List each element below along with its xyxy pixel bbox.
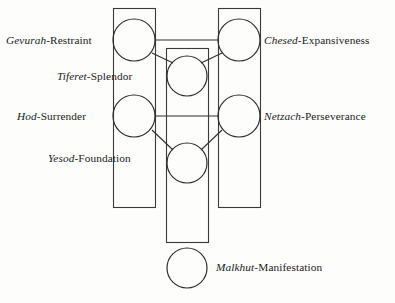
sefirah-circle-chesed[interactable] xyxy=(218,19,260,61)
label-tiferet: Tiferet-Splendor xyxy=(57,70,132,82)
label-hod-english: Surrender xyxy=(41,110,86,122)
label-gevurah-hebrew: Gevurah xyxy=(6,34,46,46)
label-yesod-english: Foundation xyxy=(78,152,130,164)
label-yesod: Yesod-Foundation xyxy=(48,152,131,164)
label-gevurah-english: Restraint xyxy=(50,34,92,46)
label-chesed: Chesed-Expansiveness xyxy=(264,34,370,46)
label-tiferet-hebrew: Tiferet xyxy=(57,70,87,82)
sefirah-circle-hod[interactable] xyxy=(113,95,155,137)
label-netzach-hebrew: Netzach xyxy=(264,110,301,122)
sefirah-circle-yesod[interactable] xyxy=(167,143,207,183)
label-chesed-hebrew: Chesed xyxy=(264,34,298,46)
sefirot-diagram: Gevurah-Restraint Chesed-Expansiveness T… xyxy=(0,0,395,303)
sefirah-circle-gevurah[interactable] xyxy=(113,19,155,61)
label-netzach-english: Perseverance xyxy=(305,110,366,122)
label-netzach: Netzach-Perseverance xyxy=(264,110,366,122)
label-malkhut: Malkhut-Manifestation xyxy=(216,261,322,273)
label-malkhut-english: Manifestation xyxy=(258,261,322,273)
sefirah-circle-netzach[interactable] xyxy=(218,95,260,137)
label-hod-hebrew: Hod xyxy=(17,110,37,122)
label-hod: Hod-Surrender xyxy=(17,110,86,122)
label-malkhut-hebrew: Malkhut xyxy=(216,261,254,273)
label-chesed-english: Expansiveness xyxy=(302,34,370,46)
label-tiferet-english: Splendor xyxy=(91,70,133,82)
sefirah-circle-malkhut[interactable] xyxy=(167,248,207,288)
sefirah-circle-tiferet[interactable] xyxy=(167,56,207,96)
label-gevurah: Gevurah-Restraint xyxy=(6,34,92,46)
label-yesod-hebrew: Yesod xyxy=(48,152,74,164)
